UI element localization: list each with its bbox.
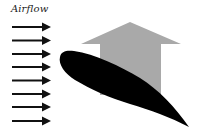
airflow-arrow-icon xyxy=(12,50,51,59)
airflow-arrow-icon xyxy=(12,117,51,126)
airflow-arrow-icon xyxy=(12,36,51,45)
airflow-arrow-icon xyxy=(12,63,51,72)
airflow-arrows xyxy=(12,23,51,126)
airflow-arrow-icon xyxy=(12,103,51,112)
airflow-arrow-icon xyxy=(12,90,51,99)
airfoil-lift-diagram xyxy=(0,0,201,138)
airflow-arrow-icon xyxy=(12,76,51,85)
airflow-arrow-icon xyxy=(12,23,51,32)
